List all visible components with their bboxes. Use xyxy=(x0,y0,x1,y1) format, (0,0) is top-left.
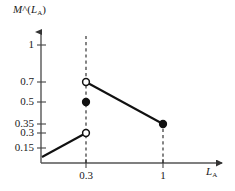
x-axis-title-subscript: A xyxy=(212,171,217,179)
open-circle-marker-0.3-0.7 xyxy=(83,79,90,86)
y-tick-label-0.3: 0.3 xyxy=(0,127,34,138)
x-tick-label-1: 1 xyxy=(143,170,183,181)
chart-canvas xyxy=(0,0,235,191)
y-axis-title-paren-close: ) xyxy=(42,3,46,15)
x-tick-label-0.3: 0.3 xyxy=(66,170,106,181)
filled-circle-marker-1-0.35 xyxy=(160,121,167,128)
filled-circle-marker-0.3-0.5 xyxy=(83,99,90,106)
series-upper-branch xyxy=(86,82,163,124)
y-axis-title-m: M xyxy=(13,3,22,15)
y-tick-label-0.7: 0.7 xyxy=(0,76,34,87)
y-tick-label-1: 1 xyxy=(0,39,34,50)
series-lower-branch xyxy=(42,133,86,157)
open-circle-marker-0.3-0.3 xyxy=(83,130,90,137)
x-axis-title: LA xyxy=(206,166,217,177)
y-tick-label-0.15: 0.15 xyxy=(0,142,34,153)
chart-figure: 1 0.7 0.5 0.35 0.3 0.15 0.3 1 M^(LA) LA xyxy=(0,0,235,191)
y-axis-title-subscript: A xyxy=(37,9,42,17)
y-tick-label-0.5: 0.5 xyxy=(0,96,34,107)
y-axis-title: M^(LA) xyxy=(13,4,46,15)
